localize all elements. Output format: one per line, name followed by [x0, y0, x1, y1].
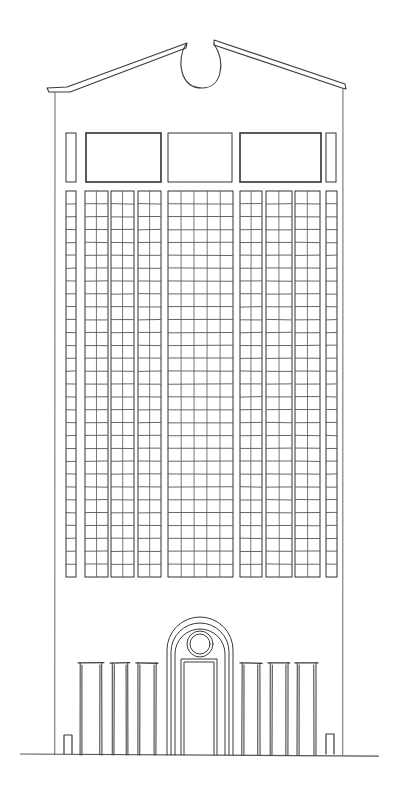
upper-window-group: [86, 133, 161, 182]
entrance-door-inner: [184, 662, 214, 755]
facade-sketch: [0, 0, 399, 812]
upper-side-window: [66, 133, 76, 182]
ground-floor-entrance: [64, 617, 334, 755]
ground-line: [20, 754, 379, 756]
grid-transom: [240, 487, 262, 488]
grid-transom: [138, 229, 161, 230]
broken-pediment: [47, 40, 346, 92]
grid-transom: [240, 538, 262, 539]
pediment-left-slope: [47, 43, 187, 92]
upper-center-window: [168, 133, 232, 182]
facade-walls: [20, 88, 379, 756]
grid-transom: [111, 204, 134, 205]
grid-transom: [240, 397, 262, 398]
bollard-right: [326, 734, 334, 754]
arch-middle: [171, 623, 229, 755]
arch-outer: [167, 617, 233, 755]
grid-transom: [240, 332, 262, 333]
arch-round-window: [187, 631, 213, 657]
upper-window-group: [240, 133, 321, 182]
grid-transom: [266, 319, 292, 320]
upper-mullion: [137, 133, 138, 182]
upper-side-window: [326, 133, 336, 182]
bollard-left: [64, 735, 72, 754]
pediment-right-slope: [214, 40, 346, 89]
grid-transom: [266, 204, 292, 205]
oculus: [181, 44, 221, 88]
arch-round-window-inner: [190, 634, 210, 654]
grid-transom: [138, 204, 161, 205]
entrance-door-frame: [181, 659, 217, 755]
upper-window-band: [66, 133, 336, 183]
window-grid: [66, 191, 338, 578]
